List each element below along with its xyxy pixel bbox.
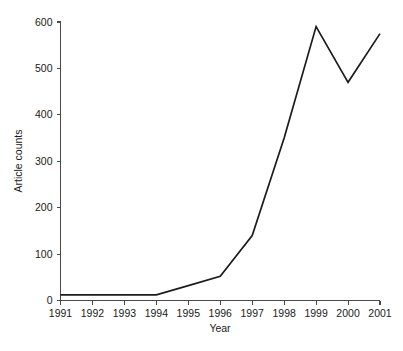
y-tick-label: 600 [35, 16, 53, 28]
x-tick-label: 1996 [209, 307, 233, 319]
x-tick-label: 1997 [241, 307, 265, 319]
y-tick-label: 0 [47, 294, 53, 306]
y-tick-label: 500 [35, 62, 53, 74]
chart-canvas: 0100200300400500600 Article counts 19911… [0, 0, 403, 351]
y-tick-label: 100 [35, 248, 53, 260]
x-tick-label: 1994 [145, 307, 169, 319]
x-tick-label: 1999 [304, 307, 328, 319]
line-chart: 0100200300400500600 Article counts 19911… [0, 0, 403, 351]
x-tick-label: 1998 [272, 307, 296, 319]
y-axis-title: Article counts [12, 129, 24, 192]
y-tick-label: 400 [35, 108, 53, 120]
x-axis-tick-labels: 1991199219931994199519961997199819992000… [49, 307, 392, 319]
x-tick-label: 2000 [336, 307, 360, 319]
x-tick-label: 1991 [49, 307, 73, 319]
x-axis-title: Year [209, 322, 231, 334]
y-tick-label: 300 [35, 155, 53, 167]
x-tick-label: 1992 [81, 307, 105, 319]
x-tick-label: 2001 [368, 307, 392, 319]
x-tick-label: 1995 [177, 307, 201, 319]
x-tick-label: 1993 [113, 307, 137, 319]
y-tick-label: 200 [35, 201, 53, 213]
